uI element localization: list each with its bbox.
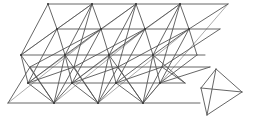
lattice-edge (28, 83, 54, 103)
lattice-node (53, 102, 55, 104)
lattice-nodes (20, 3, 190, 104)
lattice-diagonal-braces (8, 4, 228, 103)
tetrahedron-edge (207, 69, 216, 115)
lattice-node (71, 82, 73, 84)
single-tetrahedron (201, 69, 242, 115)
lattice-node (91, 3, 93, 5)
lattice-node (135, 3, 137, 5)
lattice-edge (21, 55, 28, 83)
lattice-edge (109, 29, 145, 55)
lattice-node (142, 102, 144, 104)
lattice-edge (180, 4, 189, 29)
lattice-node (115, 82, 117, 84)
lattice-edge (65, 29, 101, 55)
lattice-edge (101, 29, 109, 55)
tetrahedral-lattice (8, 4, 228, 103)
lattice-edge (98, 67, 118, 103)
diagram-canvas (0, 0, 254, 132)
lattice-node (188, 28, 190, 30)
lattice-edge (57, 29, 65, 55)
lattice-edge (101, 4, 136, 29)
lattice-edge (116, 55, 153, 83)
lattice-edge (8, 67, 30, 103)
lattice-node (144, 28, 146, 30)
lattice-node (27, 82, 29, 84)
lattice-node (159, 82, 161, 84)
lattice-edge (145, 4, 180, 29)
lattice-edge (162, 67, 185, 83)
lattice-node (56, 28, 58, 30)
tetrahedron-edge (216, 69, 242, 92)
lattice-node (97, 102, 99, 104)
lattice-edge (54, 67, 74, 103)
lattice-edge (92, 4, 101, 29)
lattice-node (20, 54, 22, 56)
lattice-node (64, 54, 66, 56)
lattice-edge (57, 4, 92, 29)
tetrahedron-edge (201, 88, 207, 115)
lattice-node (100, 28, 102, 30)
lattice-edge (189, 4, 228, 29)
lattice-node (179, 3, 181, 5)
diagram-svg (0, 0, 254, 132)
lattice-edge (153, 29, 189, 55)
lattice-edge (21, 29, 57, 55)
lattice-node (47, 3, 49, 5)
lattice-edge (136, 4, 145, 29)
lattice-edge (21, 4, 48, 55)
lattice-node (152, 54, 154, 56)
lattice-edge (72, 83, 98, 103)
tetrahedron-edge (207, 92, 242, 115)
lattice-edge (145, 29, 153, 55)
tetrahedron-edge (201, 88, 242, 92)
lattice-edge (48, 4, 57, 29)
lattice-node (108, 54, 110, 56)
lattice-edge (116, 83, 143, 103)
